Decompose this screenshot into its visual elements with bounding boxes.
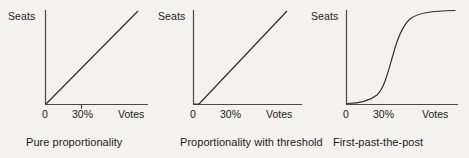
x-axis-label: Votes xyxy=(118,108,144,120)
chart-panel-proportionality-with-threshold: Seats 0 30% Votes Proportionality with t… xyxy=(152,0,307,158)
plot-area-proportionality-with-threshold xyxy=(152,0,307,158)
x-tick-label-threshold: 30% xyxy=(220,108,241,120)
data-line-first-past-the-post xyxy=(347,11,455,104)
x-tick-label-zero: 0 xyxy=(343,108,349,120)
x-axis-label: Votes xyxy=(422,108,448,120)
chart-panel-first-past-the-post: Seats 0 30% Votes First-past-the-post xyxy=(303,0,469,158)
x-axis-label: Votes xyxy=(266,108,292,120)
x-tick-label-threshold: 30% xyxy=(373,108,394,120)
chart-panel-pure-proportionality: Seats 0 30% Votes Pure proportionality xyxy=(0,0,155,158)
plot-area-pure-proportionality xyxy=(0,0,155,158)
x-tick-label-zero: 0 xyxy=(190,108,196,120)
panel-caption: First-past-the-post xyxy=(333,136,423,148)
x-tick-label-zero: 0 xyxy=(42,108,48,120)
data-line-proportionality-with-threshold xyxy=(194,11,287,104)
plot-area-first-past-the-post xyxy=(303,0,469,158)
x-tick-label-threshold: 30% xyxy=(72,108,93,120)
panel-caption: Pure proportionality xyxy=(26,136,122,148)
panel-caption: Proportionality with threshold xyxy=(180,136,323,148)
electoral-systems-figure: Seats 0 30% Votes Pure proportionality S… xyxy=(0,0,469,158)
data-line-pure-proportionality xyxy=(46,11,138,104)
